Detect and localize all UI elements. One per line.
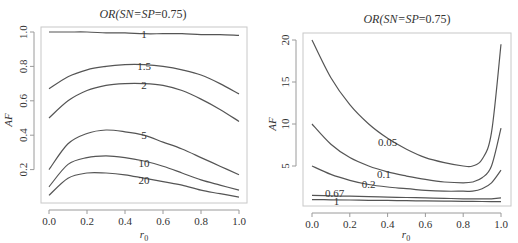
svg-text:0.2: 0.2 bbox=[80, 215, 94, 227]
curve-0_05 bbox=[312, 40, 501, 167]
svg-text:0.4: 0.4 bbox=[118, 215, 132, 227]
svg-text:10: 10 bbox=[279, 118, 291, 130]
left-x-axis: 0.00.20.40.60.81.0 bbox=[42, 210, 246, 227]
x-tick: 0.8 bbox=[456, 213, 470, 230]
y-tick: 0.6 bbox=[17, 93, 34, 107]
x-tick: 0.4 bbox=[118, 210, 132, 227]
x-tick: 1.0 bbox=[494, 213, 508, 230]
svg-text:1.0: 1.0 bbox=[17, 25, 29, 39]
curve-1 bbox=[312, 200, 501, 202]
curve-0_1 bbox=[312, 124, 501, 183]
left-x-axis-title: r0 bbox=[140, 228, 148, 243]
svg-text:0.8: 0.8 bbox=[456, 218, 470, 230]
left-y-axis: 0.20.40.60.81.0 bbox=[17, 25, 34, 177]
curve-label: 1 bbox=[334, 195, 340, 207]
right-x-axis: 0.00.20.40.60.81.0 bbox=[305, 213, 508, 230]
svg-text:0.2: 0.2 bbox=[343, 218, 357, 230]
svg-text:0.6: 0.6 bbox=[17, 93, 29, 107]
svg-text:0.0: 0.0 bbox=[305, 218, 319, 230]
svg-text:0.4: 0.4 bbox=[381, 218, 395, 230]
svg-text:0.4: 0.4 bbox=[17, 128, 29, 142]
curve-label: 0.05 bbox=[378, 136, 398, 148]
y-tick: 1.0 bbox=[17, 25, 34, 39]
y-tick: 0.8 bbox=[17, 59, 34, 73]
x-tick: 0.6 bbox=[156, 210, 170, 227]
right-y-axis-title: AF bbox=[266, 117, 278, 132]
curve-label: 2 bbox=[141, 79, 147, 91]
svg-text:1.0: 1.0 bbox=[232, 215, 246, 227]
left-curves bbox=[49, 32, 239, 197]
x-tick: 0.0 bbox=[305, 213, 319, 230]
curve-label: 5 bbox=[141, 129, 147, 141]
svg-text:0.2: 0.2 bbox=[17, 163, 29, 177]
svg-text:15: 15 bbox=[279, 76, 291, 88]
x-tick: 0.2 bbox=[343, 213, 357, 230]
chart-canvas: OR(SN=SP=0.75) 0.00.20.40.60.81.0 0.20.4… bbox=[0, 0, 518, 243]
svg-text:0.0: 0.0 bbox=[42, 215, 56, 227]
curve-label: 0.1 bbox=[377, 168, 391, 180]
x-tick: 0.8 bbox=[194, 210, 208, 227]
y-tick: 15 bbox=[279, 76, 296, 88]
left-plot-title: OR(SN=SP=0.75) bbox=[99, 7, 186, 21]
svg-text:20: 20 bbox=[279, 34, 291, 46]
x-tick: 0.4 bbox=[381, 213, 395, 230]
x-tick: 0.2 bbox=[80, 210, 94, 227]
x-tick: 1.0 bbox=[232, 210, 246, 227]
y-tick: 0.4 bbox=[17, 128, 34, 142]
svg-text:0.8: 0.8 bbox=[194, 215, 208, 227]
curve-label: 10 bbox=[139, 157, 151, 169]
svg-text:1.0: 1.0 bbox=[494, 218, 508, 230]
curve-label: 0.2 bbox=[362, 178, 376, 190]
right-plot-frame bbox=[303, 33, 511, 206]
left-curve-labels: 11.5251020 bbox=[137, 28, 151, 186]
curve-label: 1 bbox=[141, 28, 147, 40]
right-plot: OR(SN=SP=0.75) 0.00.20.40.60.81.0 510152… bbox=[266, 12, 511, 243]
curve-label: 1.5 bbox=[137, 60, 151, 72]
y-tick: 10 bbox=[279, 118, 296, 130]
svg-text:0.6: 0.6 bbox=[419, 218, 433, 230]
x-tick: 0.6 bbox=[419, 213, 433, 230]
left-y-axis-title: AF bbox=[2, 113, 14, 128]
svg-text:5: 5 bbox=[279, 163, 291, 169]
y-tick: 20 bbox=[279, 34, 296, 46]
svg-text:0.6: 0.6 bbox=[156, 215, 170, 227]
left-plot: OR(SN=SP=0.75) 0.00.20.40.60.81.0 0.20.4… bbox=[2, 7, 247, 243]
right-curves bbox=[312, 40, 501, 202]
y-tick: 5 bbox=[279, 163, 296, 169]
right-y-axis: 5101520 bbox=[279, 34, 296, 169]
svg-text:0.8: 0.8 bbox=[17, 59, 29, 73]
x-tick: 0.0 bbox=[42, 210, 56, 227]
y-tick: 0.2 bbox=[17, 163, 34, 177]
right-plot-title: OR(SN=SP=0.75) bbox=[363, 12, 450, 26]
right-x-axis-title: r0 bbox=[402, 228, 410, 243]
curve-label: 20 bbox=[139, 174, 151, 186]
